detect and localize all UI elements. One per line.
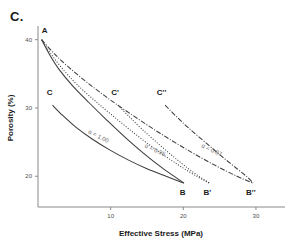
data-curves (42, 40, 253, 183)
y-tick-label: 40 (25, 37, 32, 43)
chart-canvas: 203040 102030 ACC'C''BB'B'' α = 1.00α = … (0, 0, 295, 244)
point-label-b: B (180, 188, 186, 197)
y-axis-ticks: 203040 (25, 37, 38, 180)
curve-c-b- (118, 105, 210, 183)
y-axis-title: Porosity (%) (6, 94, 15, 141)
annotation-alpha-2: α = 0.95 (144, 142, 167, 157)
x-tick-label: 20 (180, 213, 187, 219)
x-axis-title: Effective Stress (MPa) (119, 229, 203, 238)
point-label-bp: B' (203, 188, 211, 197)
point-label-a: A (42, 26, 48, 35)
curve-a-b- (42, 40, 253, 183)
figure-panel-c: C. 203040 102030 ACC'C''BB'B'' α = 1.00α… (0, 0, 295, 244)
curve-c-b (53, 105, 184, 183)
axes (38, 26, 285, 207)
y-tick-label: 20 (25, 173, 32, 179)
annotation-alpha-1: α = 1.00 (87, 129, 110, 145)
point-label-cpp: C'' (157, 88, 167, 97)
curve-annotations: α = 1.00α = 0.95α = 0.87 (87, 129, 223, 158)
y-tick-label: 30 (25, 105, 32, 111)
point-label-c: C (47, 88, 53, 97)
x-tick-label: 10 (107, 213, 114, 219)
x-tick-label: 30 (253, 213, 260, 219)
point-label-bpp: B'' (246, 188, 256, 197)
curve-a-b- (42, 40, 210, 183)
x-axis-ticks: 102030 (107, 207, 260, 219)
curve-a-b (42, 40, 184, 183)
point-label-cp: C' (111, 88, 119, 97)
point-labels: ACC'C''BB'B'' (42, 26, 256, 197)
annotation-alpha-3: α = 0.87 (201, 142, 224, 157)
